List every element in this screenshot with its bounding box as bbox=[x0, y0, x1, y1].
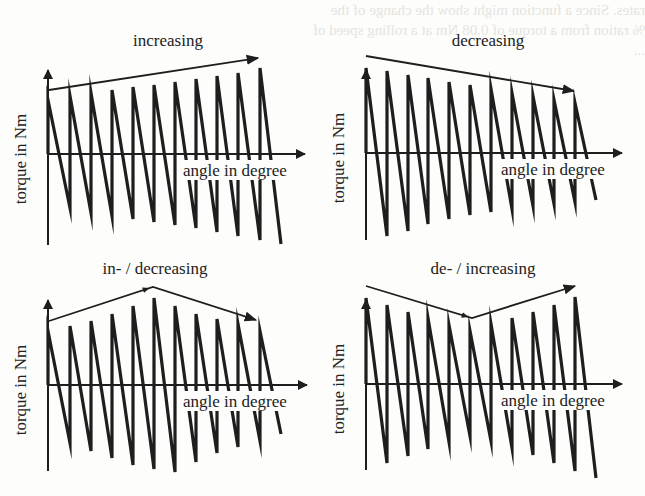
y-axis-label: torque in Nm bbox=[329, 344, 348, 435]
x-axis-label: angle in degree bbox=[183, 392, 287, 411]
x-axis-label: angle in degree bbox=[183, 161, 287, 180]
panel-title: increasing bbox=[133, 31, 203, 50]
panel-decreasing: decreasingangle in degreetorque in Nm bbox=[329, 31, 624, 240]
panel-title: in- / decreasing bbox=[103, 259, 208, 278]
torque-curve bbox=[48, 68, 281, 244]
torque-curve bbox=[366, 297, 596, 478]
y-axis-label: torque in Nm bbox=[11, 345, 30, 436]
panel-in-decreasing: in- / decreasingangle in degreetorque in… bbox=[11, 259, 307, 472]
panel-de-increasing: de- / increasingangle in degreetorque in… bbox=[329, 259, 624, 478]
panel-title: decreasing bbox=[452, 31, 525, 50]
torque-figure: increasingangle in degreetorque in Nm de… bbox=[0, 0, 645, 496]
x-axis-label: angle in degree bbox=[501, 391, 605, 410]
y-axis-label: torque in Nm bbox=[329, 113, 348, 204]
trend-arrow bbox=[366, 286, 575, 318]
y-axis-label: torque in Nm bbox=[11, 114, 30, 205]
x-axis-label: angle in degree bbox=[501, 160, 605, 179]
panel-increasing: increasingangle in degreetorque in Nm bbox=[11, 31, 306, 245]
panel-title: de- / increasing bbox=[431, 259, 536, 278]
